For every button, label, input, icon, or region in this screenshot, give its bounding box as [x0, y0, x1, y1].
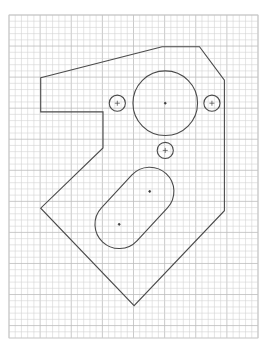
oblong-slot-center-mark: [118, 223, 120, 225]
drawing-canvas: [0, 0, 265, 350]
oblong-slot: [95, 167, 174, 248]
grid: [9, 15, 258, 338]
large-bore-center-mark: [164, 102, 166, 104]
oblong-slot-center-mark: [149, 191, 151, 193]
